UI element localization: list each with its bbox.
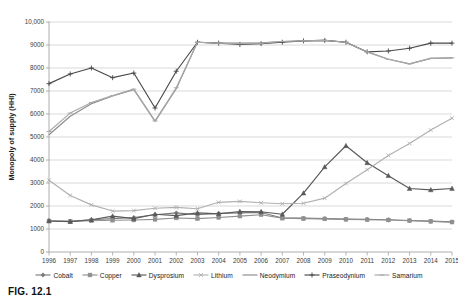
- legend-label-neodymium: Neodymium: [260, 272, 296, 279]
- datapoint-copper-2012: [386, 218, 390, 222]
- legend-item-cobalt[interactable]: Cobalt: [35, 271, 72, 279]
- y-axis-title: Monopoly of supply (HHI): [7, 93, 16, 181]
- series-line-samarium: [49, 40, 452, 131]
- chart-plot-area: 010002000300040005000600070008000900010,…: [0, 2, 458, 264]
- ytick-label-4000: 4000: [30, 156, 45, 163]
- xtick-label-2005: 2005: [233, 257, 248, 264]
- xtick-label-2003: 2003: [190, 257, 205, 264]
- legend-swatch-lithium-icon: [193, 271, 209, 279]
- datapoint-lithium-2013: [408, 142, 412, 146]
- xtick-label-2009: 2009: [318, 257, 333, 264]
- datapoint-copper-2011: [365, 218, 369, 222]
- ytick-label-2000: 2000: [30, 202, 45, 209]
- xtick-label-2012: 2012: [381, 257, 396, 264]
- ytick-label-5000: 5000: [30, 133, 45, 140]
- legend-label-samarium: Samarium: [392, 272, 422, 279]
- datapoint-copper-2001: [153, 217, 157, 221]
- series-samarium: [47, 40, 455, 131]
- legend-marker: [41, 273, 45, 277]
- datapoint-copper-2007: [280, 216, 284, 220]
- ytick-label-3000: 3000: [30, 179, 45, 186]
- datapoint-copper-2015: [450, 220, 454, 224]
- xtick-label-1997: 1997: [63, 257, 78, 264]
- datapoint-copper-1999: [111, 218, 115, 222]
- xtick-label-2002: 2002: [169, 257, 184, 264]
- xtick-label-2014: 2014: [424, 257, 439, 264]
- legend-swatch-samarium-icon: [374, 271, 390, 279]
- series-line-lithium: [49, 118, 452, 211]
- datapoint-copper-2014: [429, 220, 433, 224]
- datapoint-praseodynium-2012: [386, 48, 391, 53]
- line-chart-svg: 010002000300040005000600070008000900010,…: [0, 2, 458, 264]
- datapoint-praseodynium-1996: [47, 81, 52, 86]
- ytick-label-10,000: 10,000: [25, 18, 45, 25]
- legend-label-lithium: Lithium: [211, 272, 233, 279]
- legend-item-samarium[interactable]: Samarium: [374, 271, 422, 279]
- figure-container: 010002000300040005000600070008000900010,…: [0, 0, 458, 303]
- legend-swatch-copper-icon: [82, 271, 98, 279]
- legend-label-copper: Copper: [100, 272, 122, 279]
- datapoint-praseodynium-1997: [68, 71, 73, 76]
- legend-swatch-neodymium-icon: [242, 271, 258, 279]
- datapoint-copper-2005: [238, 214, 242, 218]
- datapoint-copper-2003: [196, 217, 200, 221]
- legend-swatch-praseodynium-icon: [304, 271, 320, 279]
- xtick-label-2011: 2011: [360, 257, 374, 264]
- chart-legend: CobaltCopperDysprosiumLithiumNeodymiumPr…: [0, 268, 458, 282]
- datapoint-praseodynium-2000: [131, 71, 136, 76]
- ytick-label-8000: 8000: [30, 64, 45, 71]
- datapoint-copper-2004: [217, 216, 221, 220]
- xtick-label-2013: 2013: [403, 257, 418, 264]
- xtick-label-1996: 1996: [42, 257, 57, 264]
- datapoint-praseodynium-2001: [153, 106, 158, 111]
- datapoint-dysprosium-2012: [386, 173, 391, 177]
- xtick-label-2010: 2010: [339, 257, 354, 264]
- xtick-label-2004: 2004: [212, 257, 227, 264]
- legend-marker: [310, 273, 315, 278]
- legend-swatch-cobalt-icon: [35, 271, 51, 279]
- x-axis-group: 1996199719981999200020012002200320042005…: [42, 252, 458, 264]
- series-lithium: [47, 116, 454, 213]
- xtick-label-2001: 2001: [148, 257, 163, 264]
- datapoint-praseodynium-2013: [407, 46, 412, 51]
- xtick-label-2000: 2000: [127, 257, 142, 264]
- series-neodymium: [49, 40, 452, 134]
- datapoint-lithium-2011: [365, 168, 369, 172]
- datapoint-copper-2010: [344, 217, 348, 221]
- xtick-label-2015: 2015: [445, 257, 458, 264]
- datapoint-copper-2008: [302, 217, 306, 221]
- datapoint-lithium-2012: [386, 154, 390, 158]
- xtick-label-2007: 2007: [275, 257, 290, 264]
- datapoint-praseodynium-1998: [89, 66, 94, 71]
- legend-item-lithium[interactable]: Lithium: [193, 271, 233, 279]
- ytick-label-1000: 1000: [30, 225, 45, 232]
- figure-caption: FIG. 12.1: [8, 286, 52, 297]
- legend-label-cobalt: Cobalt: [53, 272, 72, 279]
- legend-marker: [88, 273, 92, 277]
- xtick-label-1998: 1998: [84, 257, 99, 264]
- ytick-label-6000: 6000: [30, 110, 45, 117]
- series-line-praseodynium: [49, 40, 452, 108]
- legend-label-praseodynium: Praseodynium: [322, 272, 365, 279]
- xtick-label-2008: 2008: [297, 257, 312, 264]
- ytick-label-0: 0: [40, 248, 44, 255]
- datapoint-praseodynium-1999: [110, 75, 115, 80]
- legend-item-neodymium[interactable]: Neodymium: [242, 271, 296, 279]
- ytick-label-7000: 7000: [30, 87, 45, 94]
- legend-item-praseodynium[interactable]: Praseodynium: [304, 271, 365, 279]
- xtick-label-1999: 1999: [106, 257, 121, 264]
- datapoint-lithium-2010: [344, 182, 348, 186]
- legend-item-copper[interactable]: Copper: [82, 271, 122, 279]
- datapoint-dysprosium-2010: [344, 143, 349, 147]
- series-line-neodymium: [49, 40, 452, 134]
- series-praseodynium: [47, 38, 455, 111]
- datapoint-lithium-2014: [429, 128, 433, 132]
- datapoint-copper-2009: [323, 217, 327, 221]
- ytick-label-9000: 9000: [30, 41, 45, 48]
- series-dysprosium: [47, 143, 455, 223]
- datapoint-lithium-2015: [450, 116, 454, 120]
- legend-item-dysprosium[interactable]: Dysprosium: [131, 271, 184, 279]
- legend-label-dysprosium: Dysprosium: [149, 272, 184, 279]
- xtick-label-2006: 2006: [254, 257, 269, 264]
- legend-swatch-dysprosium-icon: [131, 271, 147, 279]
